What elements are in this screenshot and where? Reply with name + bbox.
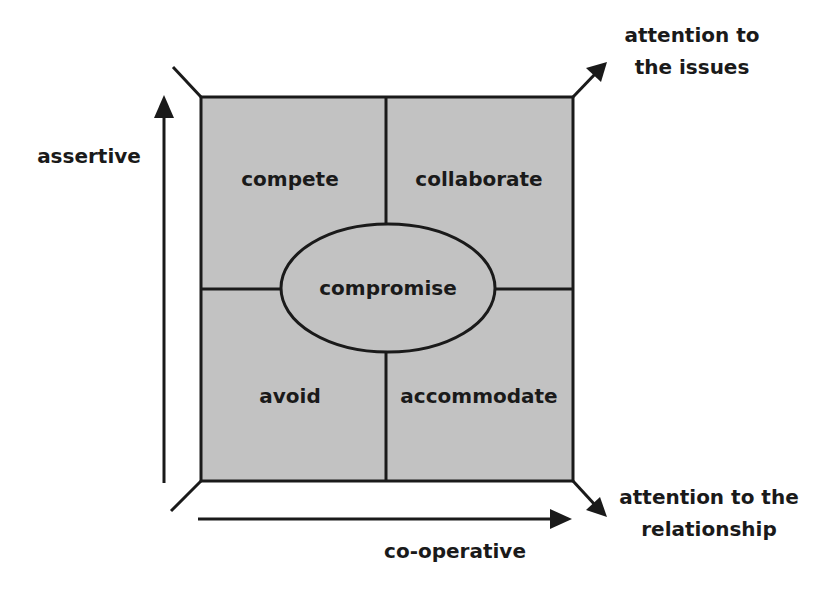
issues-axis-label-line1: attention to [624,23,759,47]
assertive-arrow-head [154,95,174,118]
relationship-arrow-line [573,481,596,506]
vertical-axis-label: assertive [37,144,141,168]
relationship-axis-label-line2: relationship [641,517,777,541]
corner-tick-bottom-left [171,481,201,511]
conflict-styles-diagram: compete collaborate avoid accommodate co… [0,0,839,595]
quadrant-avoid-label: avoid [259,384,320,408]
issues-axis-label-line2: the issues [635,55,750,79]
quadrant-accommodate-label: accommodate [400,384,557,408]
relationship-axis-label-line1: attention to the [619,485,798,509]
horizontal-axis-label: co-operative [384,539,526,563]
quadrant-compete-label: compete [241,167,338,191]
cooperative-arrow-head [550,509,572,529]
corner-tick-top-left [173,67,201,97]
center-compromise-label: compromise [319,276,457,300]
quadrant-collaborate-label: collaborate [415,167,542,191]
issues-arrow-line [573,72,597,97]
